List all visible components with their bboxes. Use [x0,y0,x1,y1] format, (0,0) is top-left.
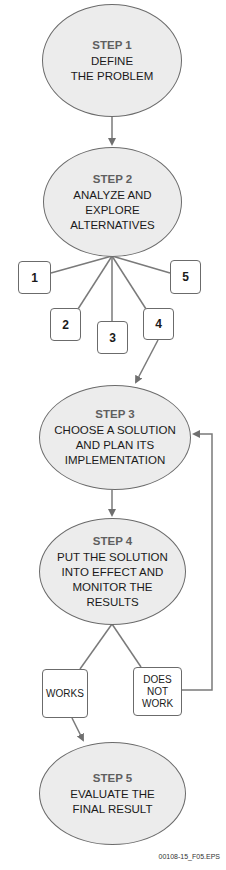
step-4-label: STEP 4 [93,534,132,548]
alternative-box-5: 5 [170,260,201,294]
step-3-node: STEP 3 CHOOSE A SOLUTION AND PLAN ITS IM… [39,385,191,490]
alternative-box-2: 2 [50,308,81,341]
step-1-text: DEFINE THE PROBLEM [71,54,153,84]
alternative-box-3: 3 [97,321,128,354]
problem-solving-flowchart: STEP 1 DEFINE THE PROBLEM STEP 2 ANALYZE… [0,0,226,870]
step-3-text: CHOOSE A SOLUTION AND PLAN ITS IMPLEMENT… [54,423,175,468]
step-5-text: EVALUATE THE FINAL RESULT [70,787,154,817]
alternative-box-4: 4 [143,308,174,340]
step-2-label: STEP 2 [93,172,132,186]
step-2-text: ANALYZE AND EXPLORE ALTERNATIVES [70,188,155,233]
step-5-node: STEP 5 EVALUATE THE FINAL RESULT [39,742,186,845]
step-1-label: STEP 1 [92,38,131,52]
step-1-node: STEP 1 DEFINE THE PROBLEM [42,4,182,117]
works-box: WORKS [42,669,88,718]
step-4-text: PUT THE SOLUTION INTO EFFECT AND MONITOR… [57,550,168,610]
alternative-box-1: 1 [18,261,51,294]
step-5-label: STEP 5 [93,771,132,785]
step-2-node: STEP 2 ANALYZE AND EXPLORE ALTERNATIVES [43,147,182,257]
file-id-caption: 00108-15_F05.EPS [159,853,221,860]
step-4-node: STEP 4 PUT THE SOLUTION INTO EFFECT AND … [39,518,186,625]
does-not-work-box: DOES NOT WORK [133,667,182,716]
step-3-label: STEP 3 [95,407,134,421]
